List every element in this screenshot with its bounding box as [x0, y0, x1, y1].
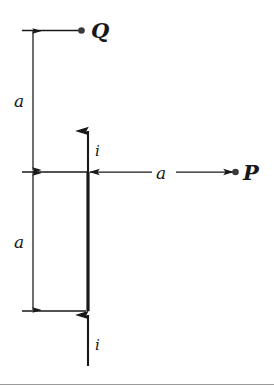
current-arrow-lower-group: i: [88, 315, 100, 366]
dimension-right-label: a: [156, 163, 166, 183]
current-label-upper: i: [95, 142, 100, 160]
point-p-label: P: [242, 160, 260, 185]
point-q-label: Q: [91, 18, 109, 43]
diagram-canvas: Q a i a P a: [0, 0, 274, 390]
dimension-bottom-group: a: [14, 173, 33, 310]
dimension-top-group: a: [14, 31, 33, 170]
point-p-dot: [232, 169, 239, 176]
current-label-lower: i: [95, 336, 100, 354]
current-arrow-upper-group: i: [88, 131, 100, 172]
point-q-dot: [78, 27, 85, 34]
dimension-bottom-label: a: [14, 232, 24, 252]
physics-diagram-figure: Q a i a P a: [0, 0, 274, 390]
dimension-right-group: a: [90, 163, 233, 183]
dimension-top-label: a: [14, 91, 24, 111]
